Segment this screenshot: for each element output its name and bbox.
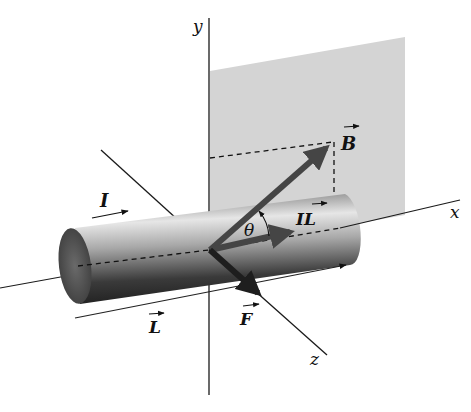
x-axis-label: x [450,202,460,222]
z-axis-back [101,150,178,220]
current-label: I [99,190,109,211]
svg-text:IL: IL [295,209,316,229]
svg-text:L: L [148,317,161,337]
current-arrow [92,211,128,218]
force-diagram: y x z I B IL F L θ [0,0,471,412]
svg-text:F: F [239,309,254,329]
l-label: L [148,313,164,337]
z-axis-label: z [309,349,320,369]
f-label: F [239,304,259,329]
theta-label: θ [244,220,254,240]
svg-text:B: B [340,133,356,154]
y-axis-label: y [192,16,203,36]
